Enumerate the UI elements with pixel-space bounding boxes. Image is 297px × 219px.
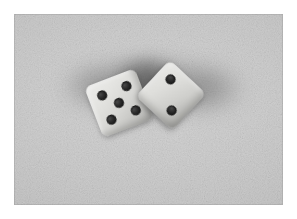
right-die-value: two [0, 0, 1, 1]
photograph-plate [14, 14, 283, 205]
left-die-value: five [0, 0, 1, 1]
image-caption: Two dice resting on a gray surface, left… [0, 0, 1, 1]
image-alt-text: Close-up photograph of a pair of white d… [0, 0, 1, 1]
image-canvas: Two dice resting on a gray surface, left… [0, 0, 297, 219]
